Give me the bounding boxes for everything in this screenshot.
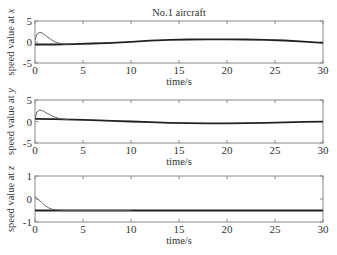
x-tick-label: 30 xyxy=(318,144,330,156)
subplot-z: 051015202530-101time/sspeed value at z xyxy=(5,166,329,246)
subplot-y: 051015202530-505time/sspeed value at y xyxy=(5,88,329,167)
thick-series-line xyxy=(35,39,323,44)
x-tick-label: 15 xyxy=(174,64,186,76)
x-tick-label: 30 xyxy=(318,64,330,76)
axes-box xyxy=(35,100,323,143)
x-axis-label: time/s xyxy=(166,76,192,87)
y-tick-label: 5 xyxy=(27,15,33,27)
y-tick-label: 5 xyxy=(27,94,33,106)
x-tick-label: 25 xyxy=(270,144,282,156)
x-tick-label: 10 xyxy=(126,64,138,76)
y-axis-label: speed value at x xyxy=(5,8,16,75)
axes-box xyxy=(35,176,323,222)
x-tick-label: 5 xyxy=(80,64,86,76)
y-axis-label: speed value at z xyxy=(5,166,16,232)
x-tick-label: 0 xyxy=(32,144,38,156)
x-tick-label: 5 xyxy=(80,144,86,156)
x-tick-label: 15 xyxy=(174,223,186,235)
axes-box xyxy=(35,21,323,63)
y-tick-label: 0 xyxy=(27,36,33,48)
y-tick-label: 1 xyxy=(27,170,33,182)
y-axis-label: speed value at y xyxy=(5,88,16,155)
x-tick-label: 0 xyxy=(32,64,38,76)
x-tick-label: 0 xyxy=(32,223,38,235)
thin-series-line xyxy=(35,32,69,44)
y-tick-label: 0 xyxy=(27,193,33,205)
x-tick-label: 20 xyxy=(222,144,234,156)
x-tick-label: 25 xyxy=(270,223,282,235)
thin-series-line xyxy=(35,197,131,211)
x-tick-label: 10 xyxy=(126,223,138,235)
y-tick-label: -5 xyxy=(23,57,33,69)
x-axis-label: time/s xyxy=(166,235,192,246)
x-axis-label: time/s xyxy=(166,156,192,167)
x-tick-label: 10 xyxy=(126,144,138,156)
x-tick-label: 25 xyxy=(270,64,282,76)
x-tick-label: 20 xyxy=(222,223,234,235)
figure: No.1 aircraft 051015202530-505time/sspee… xyxy=(0,0,337,255)
y-tick-label: 0 xyxy=(27,116,33,128)
x-tick-label: 30 xyxy=(318,223,330,235)
figure-title: No.1 aircraft xyxy=(152,7,206,18)
y-tick-label: -1 xyxy=(23,216,32,228)
x-tick-label: 20 xyxy=(222,64,234,76)
x-tick-label: 15 xyxy=(174,144,186,156)
x-tick-label: 5 xyxy=(80,223,86,235)
thick-series-line xyxy=(35,119,323,124)
subplot-x: 051015202530-505time/sspeed value at x xyxy=(5,8,329,87)
y-tick-label: -5 xyxy=(23,137,33,149)
